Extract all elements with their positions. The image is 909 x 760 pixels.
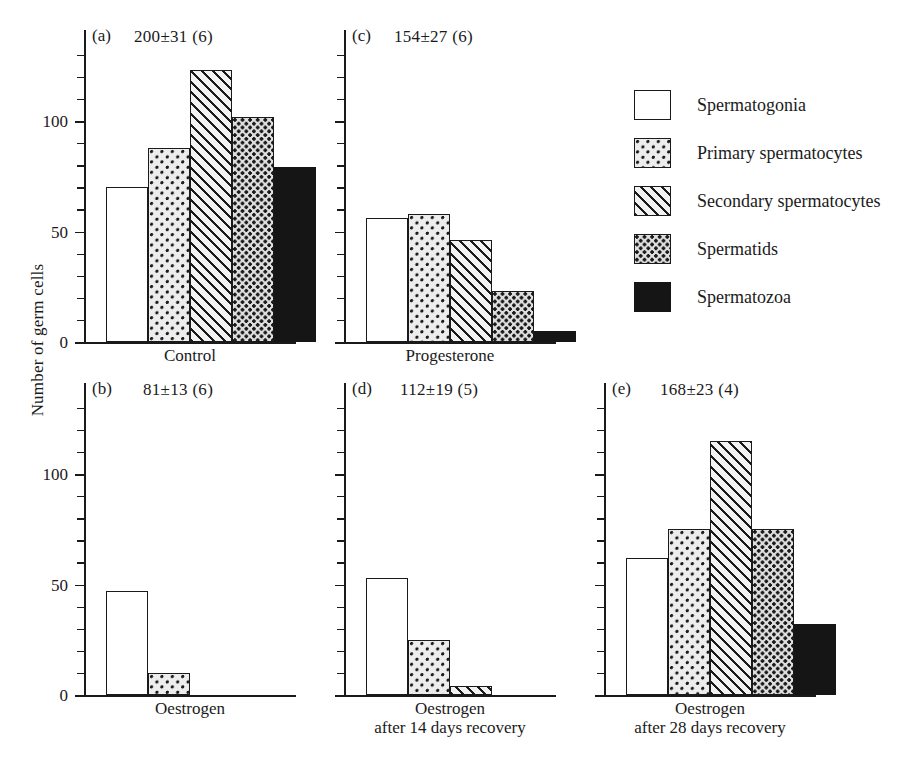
- legend-label: Spermatids: [697, 239, 778, 260]
- panel-stat-annotation: 200±31 (6): [134, 27, 213, 47]
- y-axis-tick: [75, 342, 84, 344]
- y-axis-tick: [77, 673, 84, 674]
- y-axis-tick: [597, 607, 604, 608]
- y-axis-tick: [77, 320, 84, 321]
- bar-open: [366, 578, 408, 695]
- y-axis-tick: [77, 99, 84, 100]
- y-axis-title: Number of germ cells: [28, 210, 48, 470]
- x-axis-line: [84, 342, 296, 344]
- y-axis-tick: [337, 276, 344, 277]
- y-axis-tick-label: 100: [43, 466, 69, 483]
- y-axis-tick: [77, 408, 84, 409]
- bar-dot: [408, 640, 450, 695]
- y-axis-tick: [597, 430, 604, 431]
- panel-tag: (c): [352, 26, 371, 46]
- y-axis-tick: [337, 430, 344, 431]
- y-axis-line: [344, 30, 346, 344]
- y-axis-tick: [337, 143, 344, 144]
- y-axis-tick: [595, 695, 604, 697]
- y-axis-tick: [597, 408, 604, 409]
- legend-item-diag[interactable]: Secondary spermatocytes: [634, 186, 880, 216]
- x-axis-caption-line2: after 28 days recovery: [550, 718, 870, 737]
- y-axis-line: [84, 383, 86, 697]
- y-axis-tick: [337, 165, 344, 166]
- y-axis-tick: [77, 298, 84, 299]
- y-axis-tick: [337, 540, 344, 541]
- x-axis-caption-line1: Progesterone: [290, 346, 610, 365]
- legend-label: Spermatozoa: [697, 287, 791, 308]
- y-axis-tick: [597, 518, 604, 519]
- legend-swatch-open-icon: [634, 90, 671, 120]
- y-axis-tick: [75, 474, 84, 476]
- bar-check: [492, 291, 534, 342]
- y-axis-tick: [77, 430, 84, 431]
- legend-item-solid[interactable]: Spermatozoa: [634, 282, 791, 312]
- y-axis-tick: [337, 209, 344, 210]
- bar-diag: [710, 441, 752, 695]
- y-axis-tick: [335, 695, 344, 697]
- y-axis-tick: [337, 77, 344, 78]
- y-axis-tick: [77, 254, 84, 255]
- y-axis-tick-label: 50: [51, 576, 68, 593]
- panel-stat-annotation: 112±19 (5): [400, 380, 478, 400]
- y-axis-tick: [77, 165, 84, 166]
- y-axis-tick: [77, 496, 84, 497]
- y-axis-tick: [77, 187, 84, 188]
- legend-item-open[interactable]: Spermatogonia: [634, 90, 806, 120]
- panel-tag: (a): [92, 26, 111, 46]
- y-axis-tick: [337, 55, 344, 56]
- y-axis-tick: [77, 452, 84, 453]
- y-axis-tick: [77, 209, 84, 210]
- legend-item-dot[interactable]: Primary spermatocytes: [634, 138, 862, 168]
- y-axis-tick: [597, 651, 604, 652]
- bar-diag: [450, 686, 492, 695]
- y-axis-tick: [77, 55, 84, 56]
- y-axis-tick: [337, 452, 344, 453]
- y-axis-tick: [75, 695, 84, 697]
- bar-open: [366, 218, 408, 342]
- y-axis-tick: [337, 562, 344, 563]
- y-axis-tick: [77, 651, 84, 652]
- y-axis-tick: [597, 673, 604, 674]
- bar-check: [752, 529, 794, 695]
- legend-label: Spermatogonia: [697, 95, 806, 116]
- x-axis-line: [344, 695, 556, 697]
- bar-diag: [190, 70, 232, 342]
- panel-tag: (e): [612, 379, 631, 399]
- y-axis-tick: [75, 232, 84, 234]
- x-axis-caption: Oestrogenafter 28 days recovery: [550, 699, 870, 737]
- bar-solid: [274, 167, 316, 342]
- y-axis-tick: [77, 143, 84, 144]
- legend-item-check[interactable]: Spermatids: [634, 234, 778, 264]
- panel-stat-annotation: 168±23 (4): [660, 380, 739, 400]
- y-axis-tick: [597, 496, 604, 497]
- bar-open: [106, 591, 148, 695]
- y-axis-tick: [77, 276, 84, 277]
- y-axis-tick: [597, 629, 604, 630]
- y-axis-tick: [337, 187, 344, 188]
- bar-solid: [534, 331, 576, 342]
- y-axis-tick: [597, 562, 604, 563]
- bar-open: [626, 558, 668, 695]
- y-axis-tick: [337, 408, 344, 409]
- y-axis-tick: [337, 99, 344, 100]
- x-axis-line: [604, 695, 816, 697]
- y-axis-tick: [77, 607, 84, 608]
- y-axis-line: [344, 383, 346, 697]
- y-axis-tick: [337, 629, 344, 630]
- bar-dot: [148, 148, 190, 342]
- bar-dot: [668, 529, 710, 695]
- y-axis-tick: [335, 232, 344, 234]
- y-axis-tick: [77, 518, 84, 519]
- y-axis-tick: [337, 320, 344, 321]
- bar-open: [106, 187, 148, 342]
- y-axis-tick: [335, 342, 344, 344]
- panel-stat-annotation: 81±13 (6): [143, 380, 213, 400]
- legend-swatch-dot-icon: [634, 138, 671, 168]
- y-axis-tick: [77, 629, 84, 630]
- y-axis-tick: [597, 452, 604, 453]
- panel-tag: (d): [352, 379, 372, 399]
- legend-swatch-check-icon: [634, 234, 671, 264]
- y-axis-tick: [75, 585, 84, 587]
- y-axis-tick-label: 50: [51, 223, 68, 240]
